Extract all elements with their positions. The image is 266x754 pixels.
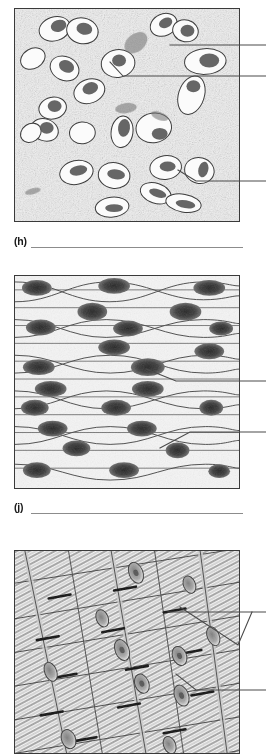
micrograph-panel-smooth-muscle (14, 275, 240, 489)
micrograph-panel-cardiac-muscle (14, 550, 240, 754)
cardiac-muscle-illustration (15, 551, 239, 753)
worksheet-page: (h) (j) (0, 0, 266, 754)
answer-row-h: (h) (0, 228, 266, 248)
answer-label-h: (h) (14, 235, 27, 247)
answer-label-j: (j) (14, 501, 23, 513)
answer-blank-j[interactable] (31, 513, 243, 514)
micrograph-panel-areolar (14, 8, 240, 222)
smooth-muscle-illustration (15, 276, 239, 488)
answer-blank-h[interactable] (31, 247, 243, 248)
answer-row-j: (j) (0, 494, 266, 514)
areolar-tissue-illustration (15, 9, 239, 221)
